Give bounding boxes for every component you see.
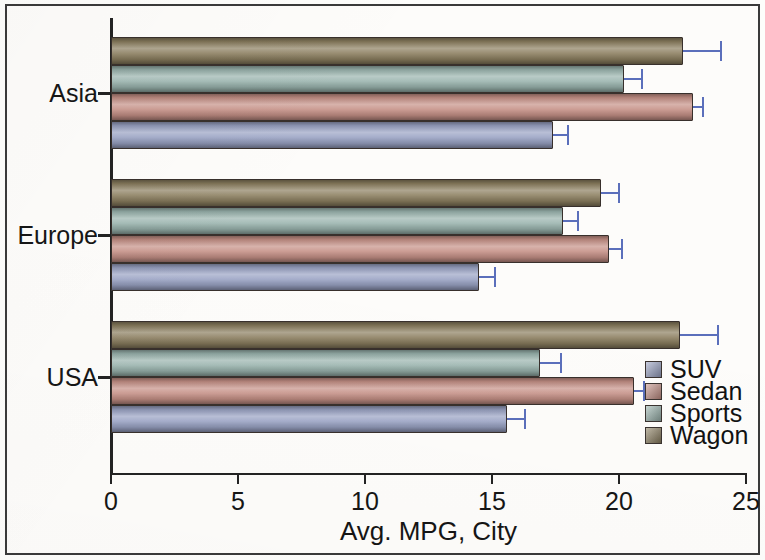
error-bar-cap [621,239,623,259]
x-tick-mark [745,473,747,484]
error-bar-line [553,134,568,136]
error-bar-cap [641,69,643,89]
y-tick-label-asia: Asia [49,79,98,108]
bar-sedan-europe [111,235,609,263]
bar-sports-asia [111,65,624,93]
bar-suv-europe [111,263,479,291]
error-bar-cap [494,267,496,287]
x-tick-mark [618,473,620,484]
y-tick-label-usa: USA [47,363,98,392]
bar-wagon-asia [111,37,683,65]
error-bar-line [563,220,578,222]
bar-sedan-asia [111,93,693,121]
chart-legend: SUVSedanSportsWagon [645,358,748,446]
y-tick-mark [98,234,112,237]
x-tick-label: 20 [605,487,633,516]
bar-sports-usa [111,349,540,377]
error-bar-cap [577,211,579,231]
bar-wagon-europe [111,179,601,207]
legend-swatch-sedan [645,383,662,400]
error-bar-line [479,276,494,278]
x-tick-label: 0 [104,487,118,516]
x-tick-mark [110,473,112,484]
y-tick-label-europe: Europe [17,221,98,250]
x-tick-mark [491,473,493,484]
error-bar-line [507,418,525,420]
error-bar-cap [524,409,526,429]
y-tick-mark [98,92,112,95]
x-tick-label: 15 [478,487,506,516]
x-tick-mark [237,473,239,484]
bar-suv-asia [111,121,553,149]
chart-screenshot: 0510152025 AsiaEuropeUSA Avg. MPG, City … [0,0,765,560]
y-tick-mark [98,376,112,379]
error-bar-line [683,50,721,52]
bar-sports-europe [111,207,563,235]
error-bar-line [680,334,718,336]
legend-swatch-wagon [645,427,662,444]
x-tick-mark [364,473,366,484]
x-tick-label: 5 [231,487,245,516]
error-bar-cap [567,125,569,145]
legend-label-wagon: Wagon [670,423,748,448]
x-axis-line [110,473,747,475]
x-tick-label: 25 [732,487,760,516]
bar-sedan-usa [111,377,634,405]
error-bar-line [601,192,619,194]
error-bar-cap [560,353,562,373]
error-bar-cap [717,325,719,345]
error-bar-line [540,362,560,364]
legend-swatch-sports [645,405,662,422]
x-axis-title: Avg. MPG, City [110,516,747,547]
bar-wagon-usa [111,321,680,349]
legend-item-wagon[interactable]: Wagon [645,424,748,446]
error-bar-line [624,78,642,80]
error-bar-cap [618,183,620,203]
legend-swatch-suv [645,361,662,378]
plot-area: 0510152025 AsiaEuropeUSA Avg. MPG, City [0,0,765,560]
error-bar-cap [702,97,704,117]
error-bar-cap [720,41,722,61]
bar-suv-usa [111,405,507,433]
x-tick-label: 10 [351,487,379,516]
